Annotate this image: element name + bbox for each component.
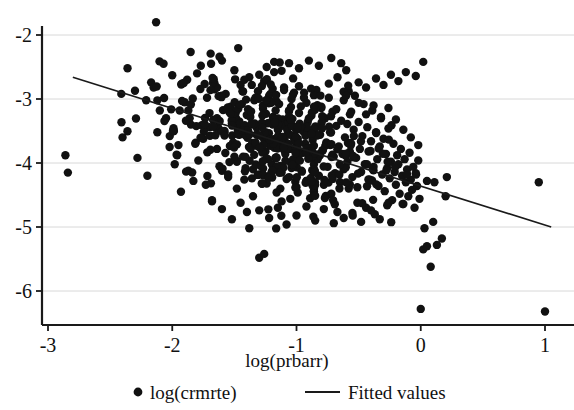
- scatter-plot-figure: -2-3-4-5-6 -3-2-101 log(prbarr) log(crmr…: [0, 0, 574, 410]
- data-point: [278, 133, 286, 141]
- data-point: [443, 173, 451, 181]
- data-point: [206, 49, 214, 57]
- data-point: [255, 70, 263, 78]
- data-point: [407, 133, 415, 141]
- data-point: [331, 200, 339, 208]
- data-point: [264, 174, 272, 182]
- data-point: [372, 180, 380, 188]
- data-point: [231, 75, 239, 83]
- y-tick-label: -6: [15, 280, 32, 302]
- data-point: [182, 167, 190, 175]
- data-point: [226, 110, 234, 118]
- data-point: [333, 208, 341, 216]
- data-point: [335, 171, 343, 179]
- data-point: [203, 94, 211, 102]
- data-point: [196, 133, 204, 141]
- data-point: [332, 105, 340, 113]
- data-point: [397, 145, 405, 153]
- data-point: [295, 64, 303, 72]
- data-point: [369, 101, 377, 109]
- data-point: [374, 144, 382, 152]
- data-point: [133, 154, 141, 162]
- data-point: [392, 181, 400, 189]
- data-point: [236, 100, 244, 108]
- data-point: [414, 156, 422, 164]
- data-point: [387, 70, 395, 78]
- data-point: [353, 183, 361, 191]
- data-point: [430, 178, 438, 186]
- data-point: [241, 167, 249, 175]
- data-point: [366, 147, 374, 155]
- data-point: [426, 262, 434, 270]
- data-point: [291, 183, 299, 191]
- data-point: [296, 156, 304, 164]
- data-point: [265, 214, 273, 222]
- data-point: [289, 74, 297, 82]
- data-point: [354, 169, 362, 177]
- data-point: [438, 234, 446, 242]
- data-point: [330, 219, 338, 227]
- data-point: [160, 117, 168, 125]
- data-point: [194, 156, 202, 164]
- data-point: [258, 82, 266, 90]
- data-point: [276, 184, 284, 192]
- data-point: [168, 71, 176, 79]
- data-point: [211, 131, 219, 139]
- data-point: [377, 113, 385, 121]
- y-tick-label: -2: [15, 24, 32, 46]
- data-point: [172, 151, 180, 159]
- data-point: [382, 166, 390, 174]
- data-point: [233, 184, 241, 192]
- data-point: [367, 137, 375, 145]
- data-point: [262, 96, 270, 104]
- data-point: [376, 215, 384, 223]
- data-point: [258, 111, 266, 119]
- legend-fit-label: Fitted values: [348, 382, 446, 403]
- data-point: [239, 87, 247, 95]
- data-point: [217, 93, 225, 101]
- y-tick-label: -4: [15, 152, 32, 174]
- legend-scatter-label: log(crmrte): [150, 382, 237, 404]
- data-point: [177, 188, 185, 196]
- data-point: [311, 192, 319, 200]
- data-point: [344, 139, 352, 147]
- data-point: [208, 196, 216, 204]
- data-point: [398, 200, 406, 208]
- x-tick-label: 1: [540, 334, 550, 356]
- data-point: [288, 160, 296, 168]
- data-point: [429, 218, 437, 226]
- data-point: [230, 66, 238, 74]
- data-point: [302, 202, 310, 210]
- data-point: [123, 64, 131, 72]
- data-point: [254, 171, 262, 179]
- data-point: [247, 107, 255, 115]
- data-point: [391, 163, 399, 171]
- data-point: [387, 218, 395, 226]
- data-point: [405, 149, 413, 157]
- data-point: [357, 137, 365, 145]
- data-point: [356, 145, 364, 153]
- data-point: [337, 59, 345, 67]
- x-tick-label: 0: [416, 334, 426, 356]
- data-point: [221, 149, 229, 157]
- data-point: [123, 127, 131, 135]
- plot-canvas: -2-3-4-5-6 -3-2-101 log(prbarr) log(crmr…: [0, 0, 574, 410]
- data-point: [394, 77, 402, 85]
- data-point: [271, 106, 279, 114]
- data-point: [203, 172, 211, 180]
- data-point: [248, 119, 256, 127]
- data-point: [245, 224, 253, 232]
- data-point: [316, 91, 324, 99]
- data-point: [182, 117, 190, 125]
- data-point: [165, 143, 173, 151]
- data-point: [321, 194, 329, 202]
- data-point: [381, 187, 389, 195]
- data-point: [143, 172, 151, 180]
- data-point: [295, 82, 303, 90]
- data-point: [292, 211, 300, 219]
- legend-scatter-marker-icon: [134, 388, 143, 397]
- data-point: [250, 151, 258, 159]
- data-point: [372, 74, 380, 82]
- data-point: [171, 160, 179, 168]
- fitted-line-group: [73, 77, 551, 227]
